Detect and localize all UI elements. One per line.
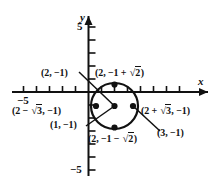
label-right-radicand: 3 [165,104,171,116]
label-right-point: (2 + √3, −1) [141,106,190,116]
label-bottom-suffix: ) [134,133,137,144]
label-top-point: (2, −1 + √2) [95,68,144,78]
label-center-point: (2, −1) [41,68,68,78]
label-top-suffix: ) [141,67,144,78]
x-axis-arrowhead [199,88,208,96]
label-right-endpoint-text: (3, −1) [157,127,184,138]
label-top-prefix: (2, −1 + [95,67,129,78]
label-left-point: (2 − √3, −1) [12,106,61,116]
label-right-prefix: (2 + [141,105,160,116]
label-left-endpoint: (1, −1) [50,120,77,130]
label-left-radicand: 3 [36,104,42,116]
point-right [130,103,136,109]
x-axis-label: x [198,76,204,87]
point-center [111,103,117,109]
y-tick-label-minus5: −5 [70,164,82,175]
label-left-endpoint-text: (1, −1) [50,119,77,130]
radical-sign-bottom: √2 [122,133,134,144]
label-bottom-prefix: (2, −1 − [88,133,122,144]
radical-sign-top: √2 [129,67,141,78]
point-left [93,103,99,109]
label-right-suffix: , −1) [171,105,190,116]
label-right-endpoint: (3, −1) [157,128,184,138]
label-left-prefix: (2 − [12,105,31,116]
label-center-text: (2, −1) [41,67,68,78]
point-bottom [111,124,117,130]
y-axis-arrowhead [85,16,93,25]
label-left-suffix: , −1) [42,105,61,116]
radical-sign-left: √3 [31,105,43,116]
point-top [111,81,117,87]
label-bottom-radicand: 2 [128,132,134,144]
coordinate-plane-graphic [0,0,219,186]
radical-sign-right: √3 [160,105,172,116]
label-top-radicand: 2 [135,66,141,78]
y-tick-label-5: 5 [77,21,83,32]
figure-canvas: y x 5 −5 −5 (2, −1) (2, −1 + √2) (2 − √3… [0,0,219,186]
label-bottom-point: (2, −1 − √2) [88,134,137,144]
